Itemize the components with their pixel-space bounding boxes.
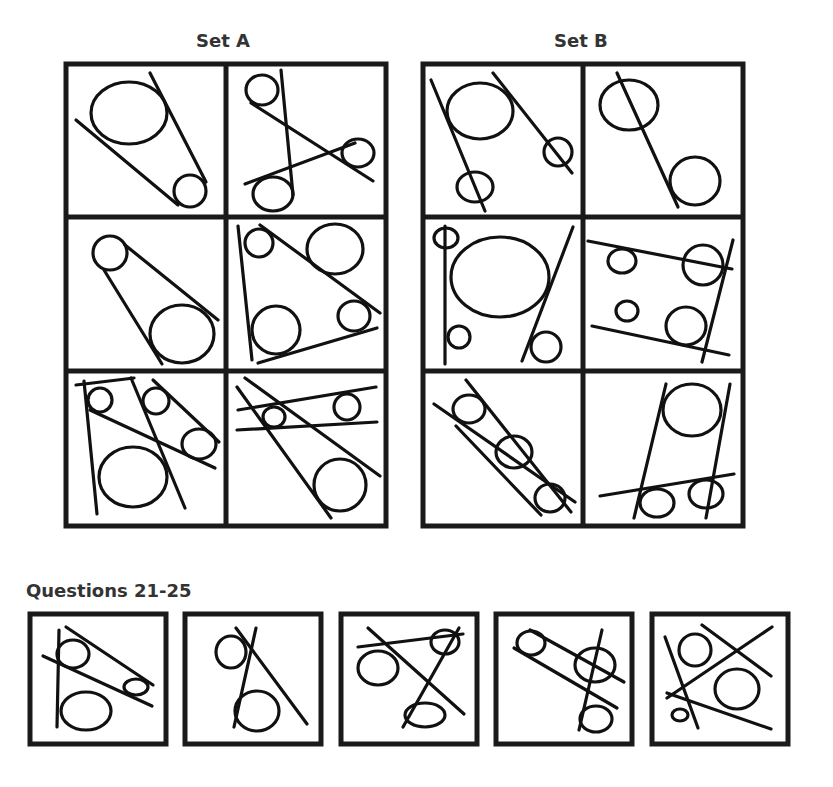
set-a-panel-2 (245, 70, 374, 211)
set-a-panel-1 (76, 73, 206, 207)
set-b-panel-5 (434, 380, 575, 515)
set-a-panel-4 (238, 224, 380, 363)
set-b-panel-4 (588, 240, 733, 362)
set-b-grid (423, 64, 743, 526)
question-22 (185, 614, 321, 744)
set-b-panel-6 (600, 384, 734, 518)
set-b-panel-2 (600, 73, 720, 207)
set-b-panel-1 (431, 73, 572, 211)
set-a-grid (66, 64, 386, 526)
set-a-panel-3 (93, 236, 218, 364)
question-23 (341, 614, 477, 744)
question-25 (652, 614, 788, 744)
set-a-panel-6 (237, 378, 380, 518)
question-21 (30, 614, 166, 744)
set-a-panel-5 (76, 378, 219, 514)
set-b-panel-3 (434, 226, 573, 364)
question-24 (496, 614, 632, 744)
puzzle-figure (0, 0, 833, 787)
